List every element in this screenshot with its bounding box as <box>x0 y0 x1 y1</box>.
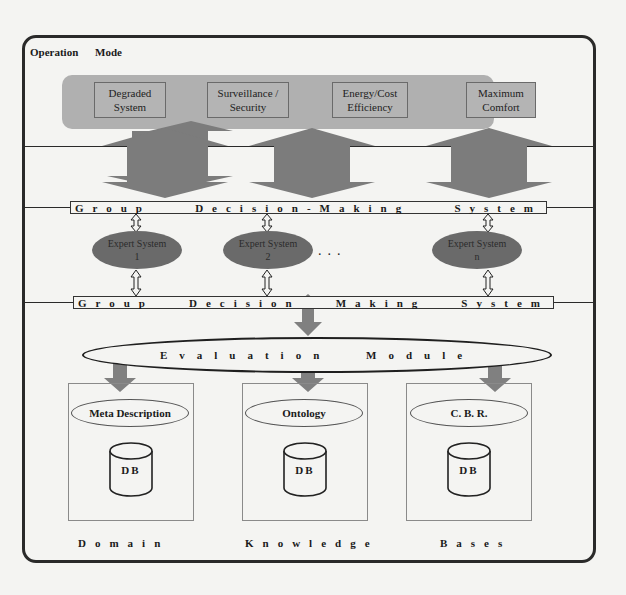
group-decision-making-system-bottom: Group Decision Making System <box>73 296 554 309</box>
knowledge-base-ontology: Ontology DB <box>242 383 368 521</box>
footer-knowledge: Knowledge <box>245 537 379 549</box>
footer-domain: Domain <box>78 537 169 549</box>
expert-system-2: Expert System2 <box>223 231 313 269</box>
expert-system-1: Expert System1 <box>92 231 182 269</box>
ontology-label: Ontology <box>245 399 363 427</box>
database-icon: DB <box>447 442 491 498</box>
divider-line-2b <box>547 207 593 208</box>
group-decision-making-system-top: Group Decision-Making System <box>70 201 547 214</box>
expert-system-n: Expert Systemn <box>432 231 522 269</box>
database-icon: DB <box>283 442 327 498</box>
divider-line-3b <box>554 302 593 303</box>
evaluation-module: Evaluation Module <box>82 337 552 373</box>
database-icon: DB <box>109 442 153 498</box>
meta-description-label: Meta Description <box>71 399 189 427</box>
cbr-label: C. B. R. <box>410 399 528 427</box>
divider-line-3a <box>25 302 73 303</box>
knowledge-base-meta-description: Meta Description DB <box>68 383 194 521</box>
ellipsis: ... <box>318 243 347 259</box>
divider-line-2a <box>25 207 70 208</box>
footer-bases: Bases <box>440 537 511 549</box>
knowledge-base-cbr: C. B. R. DB <box>406 383 532 521</box>
